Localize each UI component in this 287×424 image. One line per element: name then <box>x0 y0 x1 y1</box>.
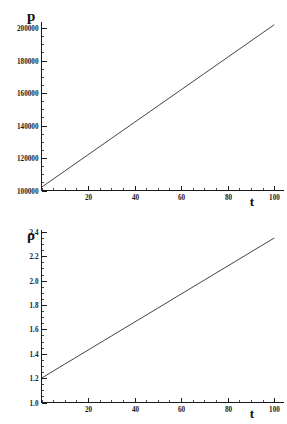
y-tick-label: 200000 <box>17 25 39 33</box>
pressure-series-line <box>42 25 275 188</box>
density-x-ticks <box>43 398 275 403</box>
y-tick-label: 120000 <box>17 155 39 163</box>
x-tick-label: 100 <box>269 194 280 202</box>
axis-spines <box>42 230 284 403</box>
pressure-plot: 100000120000140000160000180000200000 204… <box>0 0 287 212</box>
x-tick-label: 80 <box>225 194 233 202</box>
y-tick-label: 140000 <box>17 123 39 131</box>
density-axes <box>42 230 284 403</box>
y-tick-label: 1.4 <box>30 351 39 359</box>
density-series-line <box>42 238 275 378</box>
density-y-axis-label: ρ <box>27 227 35 243</box>
y-tick-label: 2.2 <box>30 253 39 261</box>
pressure-x-axis-label: t <box>250 194 255 209</box>
x-tick-label: 20 <box>85 406 93 414</box>
y-tick-label: 160000 <box>17 90 39 98</box>
y-tick-label: 1.6 <box>30 326 39 334</box>
density-plot: 1.01.21.41.61.82.02.22.4 20406080100 ρ t <box>0 212 287 424</box>
pressure-x-ticks <box>43 186 275 191</box>
x-tick-label: 80 <box>225 406 233 414</box>
y-tick-label: 2.0 <box>30 278 39 286</box>
density-y-ticklabels: 1.01.21.41.61.82.02.22.4 <box>30 229 39 408</box>
axis-spines <box>42 22 284 191</box>
pressure-y-ticks <box>42 29 47 192</box>
x-tick-label: 40 <box>132 406 140 414</box>
pressure-panel: 100000120000140000160000180000200000 204… <box>0 0 287 212</box>
y-tick-label: 1.2 <box>30 375 39 383</box>
x-tick-label: 60 <box>178 406 186 414</box>
figure-root: 100000120000140000160000180000200000 204… <box>0 0 287 424</box>
pressure-y-ticklabels: 100000120000140000160000180000200000 <box>17 25 39 196</box>
x-tick-label: 20 <box>85 194 93 202</box>
y-tick-label: 100000 <box>17 188 39 196</box>
y-tick-label: 1.8 <box>30 302 39 310</box>
x-tick-label: 60 <box>178 194 186 202</box>
pressure-axes <box>42 22 284 191</box>
x-tick-label: 100 <box>269 406 280 414</box>
y-tick-label: 180000 <box>17 58 39 66</box>
density-panel: 1.01.21.41.61.82.02.22.4 20406080100 ρ t <box>0 212 287 424</box>
x-tick-label: 40 <box>132 194 140 202</box>
pressure-y-axis-label: p <box>27 8 35 24</box>
density-x-axis-label: t <box>250 406 255 421</box>
y-tick-label: 1.0 <box>30 400 39 408</box>
